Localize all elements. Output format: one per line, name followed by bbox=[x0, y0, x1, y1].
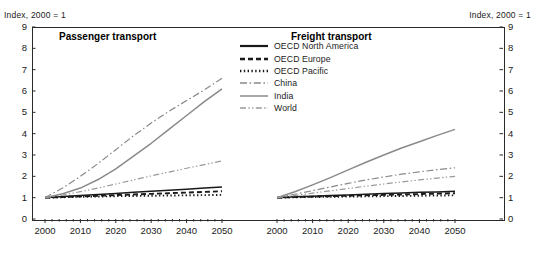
passenger-x-tick-2000: 2000 bbox=[28, 225, 62, 236]
legend-label: World bbox=[274, 103, 297, 113]
chart-figure: Index, 2000 = 1 Index, 2000 = 1 Passenge… bbox=[0, 0, 535, 255]
y-axis-tick-7: 7 bbox=[13, 64, 27, 75]
y-axis-tick-6: 6 bbox=[508, 85, 522, 96]
y-axis-tick-9: 9 bbox=[13, 21, 27, 32]
passenger-x-tick-2040: 2040 bbox=[170, 225, 204, 236]
y-axis-tick-1: 1 bbox=[508, 192, 522, 203]
y-axis-tick-3: 3 bbox=[13, 149, 27, 160]
legend-item-oecd-pacific: OECD Pacific bbox=[240, 65, 380, 77]
passenger-x-tick-2050: 2050 bbox=[205, 225, 239, 236]
freight-x-tick-2020: 2020 bbox=[331, 225, 365, 236]
index-label-left: Index, 2000 = 1 bbox=[4, 10, 66, 20]
legend-item-world: World bbox=[240, 102, 380, 114]
y-axis-tick-0: 0 bbox=[508, 213, 522, 224]
panel-title-passenger: Passenger transport bbox=[59, 31, 156, 42]
legend-label: China bbox=[274, 78, 297, 88]
y-axis-tick-5: 5 bbox=[13, 106, 27, 117]
legend-label: India bbox=[274, 91, 293, 101]
legend-swatch-icon bbox=[240, 41, 268, 51]
legend-swatch-icon bbox=[240, 91, 268, 101]
y-axis-tick-4: 4 bbox=[508, 128, 522, 139]
freight-x-tick-2040: 2040 bbox=[402, 225, 436, 236]
chart-legend: OECD North AmericaOECD EuropeOECD Pacifi… bbox=[240, 40, 380, 114]
legend-item-oecd-north-america: OECD North America bbox=[240, 40, 380, 52]
y-axis-tick-3: 3 bbox=[508, 149, 522, 160]
y-axis-tick-2: 2 bbox=[13, 170, 27, 181]
legend-swatch-icon bbox=[240, 78, 268, 88]
y-axis-tick-7: 7 bbox=[508, 64, 522, 75]
passenger-x-tick-2030: 2030 bbox=[134, 225, 168, 236]
y-axis-tick-2: 2 bbox=[508, 170, 522, 181]
y-axis-tick-6: 6 bbox=[13, 85, 27, 96]
passenger-x-tick-2020: 2020 bbox=[99, 225, 133, 236]
y-axis-tick-1: 1 bbox=[13, 192, 27, 203]
legend-label: OECD Pacific bbox=[274, 66, 328, 76]
y-axis-tick-4: 4 bbox=[13, 128, 27, 139]
legend-label: OECD Europe bbox=[274, 54, 331, 64]
freight-x-tick-2050: 2050 bbox=[438, 225, 472, 236]
freight-x-tick-2010: 2010 bbox=[296, 225, 330, 236]
passenger-x-tick-2010: 2010 bbox=[63, 225, 97, 236]
freight-x-tick-2000: 2000 bbox=[260, 225, 294, 236]
freight-x-tick-2030: 2030 bbox=[367, 225, 401, 236]
y-axis-tick-8: 8 bbox=[13, 42, 27, 53]
y-axis-tick-8: 8 bbox=[508, 42, 522, 53]
y-axis-tick-5: 5 bbox=[508, 106, 522, 117]
legend-item-china: China bbox=[240, 77, 380, 89]
legend-item-india: India bbox=[240, 90, 380, 102]
y-axis-tick-0: 0 bbox=[13, 213, 27, 224]
legend-item-oecd-europe: OECD Europe bbox=[240, 52, 380, 64]
index-label-right: Index, 2000 = 1 bbox=[469, 10, 531, 20]
legend-swatch-icon bbox=[240, 66, 268, 76]
legend-label: OECD North America bbox=[274, 41, 358, 51]
legend-swatch-icon bbox=[240, 103, 268, 113]
legend-swatch-icon bbox=[240, 54, 268, 64]
y-axis-tick-9: 9 bbox=[508, 21, 522, 32]
